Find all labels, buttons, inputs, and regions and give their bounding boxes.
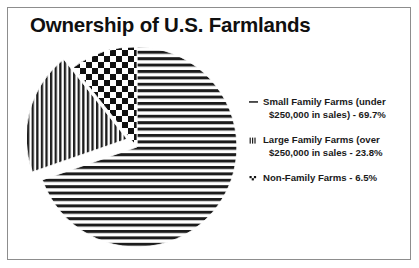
horizontal-lines-swatch-icon xyxy=(249,98,258,107)
legend-item-large-family-farms: Large Family Farms (over $250,000 in sal… xyxy=(249,134,415,159)
legend-item-small-family-farms: Small Family Farms (under $250,000 in sa… xyxy=(249,96,415,121)
vertical-lines-swatch-icon xyxy=(249,136,258,145)
chart-legend: Small Family Farms (under $250,000 in sa… xyxy=(249,96,415,198)
pie-chart-svg xyxy=(14,38,254,260)
legend-label-line1: Small Family Farms (under xyxy=(263,96,386,107)
page-title: Ownership of U.S. Farmlands xyxy=(30,14,360,37)
legend-item-non-family-farms: Non-Family Farms - 6.5% xyxy=(249,172,415,185)
pie-chart xyxy=(14,38,254,260)
checkerboard-swatch-icon xyxy=(249,174,258,183)
legend-label-line1: Non-Family Farms - 6.5% xyxy=(263,172,377,183)
legend-label-line2: $250,000 in sales - 23.8% xyxy=(263,147,415,160)
legend-label-line2: $250,000 in sales) - 69.7% xyxy=(263,109,415,122)
legend-label-line1: Large Family Farms (over xyxy=(263,134,380,145)
slide-canvas: Ownership of U.S. Farmlands xyxy=(0,0,419,268)
